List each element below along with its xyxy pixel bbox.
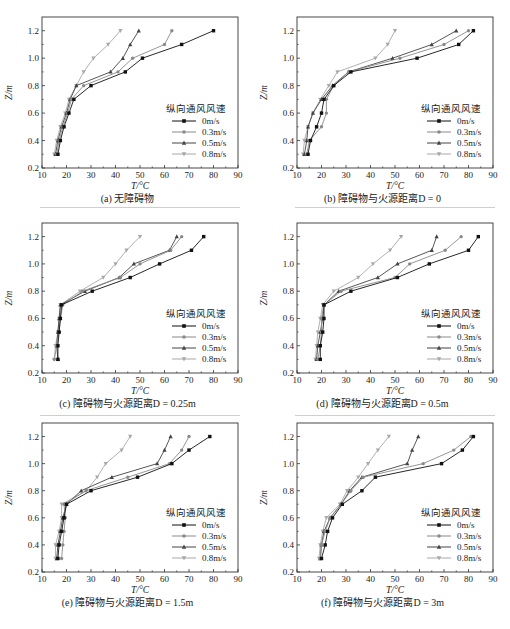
triangle-up-marker-icon: [155, 461, 159, 465]
legend-label: 0.3m/s: [202, 127, 227, 137]
legend-label: 0.5m/s: [457, 138, 482, 148]
square-marker-icon: [319, 344, 322, 347]
divider-1: [40, 207, 240, 208]
chart-f: 1020304050607080900.20.40.60.81.01.2T/°C…: [255, 420, 510, 595]
triangle-down-marker-icon: [324, 516, 328, 520]
chart-b: 1020304050607080900.20.40.60.81.01.2T/°C…: [255, 0, 510, 190]
square-marker-icon: [322, 98, 325, 101]
square-marker-icon: [60, 530, 63, 533]
chart-d: 1020304050607080900.20.40.60.81.01.2T/°C…: [255, 210, 510, 395]
square-marker-icon: [182, 523, 186, 527]
x-tick-label: 40: [111, 574, 121, 584]
square-marker-icon: [190, 249, 193, 252]
legend-label: 0m/s: [202, 321, 220, 331]
y-tick-label: 0.4: [28, 341, 40, 351]
y-tick-label: 1.0: [283, 459, 295, 469]
x-tick-label: 90: [234, 574, 244, 584]
circle-marker-icon: [452, 448, 455, 451]
y-tick-label: 0.6: [283, 108, 295, 118]
x-tick-label: 80: [209, 574, 219, 584]
legend: 纵向通风风速0m/s0.3m/s0.5m/s0.8m/s: [166, 507, 227, 563]
x-axis-label: T/°C: [386, 181, 405, 190]
square-marker-icon: [56, 153, 59, 156]
legend-label: 0.5m/s: [202, 138, 227, 148]
y-tick-label: 1.0: [28, 259, 40, 269]
y-tick-label: 1.2: [28, 432, 39, 442]
square-marker-icon: [415, 56, 418, 59]
circle-marker-icon: [53, 358, 56, 361]
square-marker-icon: [141, 56, 144, 59]
divider-3: [40, 415, 240, 416]
x-tick-label: 60: [415, 170, 425, 180]
series-0.3m/s: [53, 235, 184, 361]
square-marker-icon: [309, 139, 312, 142]
triangle-up-marker-icon: [175, 234, 179, 238]
x-tick-label: 20: [62, 375, 72, 385]
legend-title: 纵向通风风速: [166, 308, 226, 319]
x-tick-label: 50: [136, 574, 146, 584]
square-marker-icon: [89, 489, 92, 492]
square-marker-icon: [136, 475, 139, 478]
circle-marker-icon: [459, 235, 462, 238]
legend-label: 0.3m/s: [457, 531, 482, 541]
x-tick-label: 50: [136, 170, 146, 180]
y-tick-label: 0.2: [283, 368, 294, 378]
square-marker-icon: [129, 276, 132, 279]
series-0.3m/s: [305, 29, 470, 156]
x-tick-label: 20: [317, 170, 327, 180]
circle-marker-icon: [444, 249, 447, 252]
square-marker-icon: [124, 70, 127, 73]
x-tick-label: 40: [111, 170, 121, 180]
x-tick-label: 50: [391, 375, 401, 385]
y-axis-label: Z/m: [4, 290, 14, 305]
circle-marker-icon: [180, 448, 183, 451]
x-tick-label: 50: [391, 574, 401, 584]
x-tick-label: 90: [489, 574, 499, 584]
y-tick-label: 0.8: [28, 286, 40, 296]
circle-marker-icon: [182, 335, 186, 339]
legend: 纵向通风风速0m/s0.3m/s0.5m/s0.8m/s: [421, 507, 482, 563]
triangle-down-marker-icon: [82, 70, 86, 74]
series-0.8m/s: [313, 235, 403, 362]
square-marker-icon: [374, 475, 377, 478]
x-tick-label: 90: [234, 375, 244, 385]
x-tick-label: 70: [440, 574, 450, 584]
series-0m/s: [56, 29, 215, 156]
y-axis-label: Z/m: [4, 490, 14, 505]
circle-marker-icon: [182, 534, 186, 538]
y-tick-label: 1.0: [28, 53, 40, 63]
x-tick-label: 70: [185, 170, 195, 180]
y-tick-label: 0.2: [28, 368, 39, 378]
x-tick-label: 80: [464, 375, 474, 385]
x-tick-label: 40: [366, 375, 376, 385]
square-marker-icon: [472, 29, 475, 32]
circle-marker-icon: [170, 29, 173, 32]
circle-marker-icon: [437, 534, 441, 538]
legend-label: 0.5m/s: [202, 542, 227, 552]
triangle-down-marker-icon: [101, 276, 105, 280]
x-tick-label: 60: [415, 375, 425, 385]
series-0m/s: [56, 235, 205, 361]
circle-marker-icon: [320, 125, 323, 128]
x-tick-label: 20: [62, 574, 72, 584]
square-marker-icon: [341, 503, 344, 506]
y-tick-label: 0.8: [28, 486, 40, 496]
circle-marker-icon: [163, 43, 166, 46]
caption-c: (c) 障碍物与火源距离D = 0.25m: [0, 395, 255, 410]
square-marker-icon: [467, 249, 470, 252]
square-marker-icon: [212, 29, 215, 32]
legend-title: 纵向通风风速: [421, 507, 481, 518]
triangle-up-marker-icon: [435, 234, 439, 238]
y-tick-label: 0.8: [283, 286, 295, 296]
x-tick-label: 70: [185, 574, 195, 584]
square-marker-icon: [57, 330, 60, 333]
square-marker-icon: [349, 289, 352, 292]
circle-marker-icon: [61, 543, 64, 546]
square-marker-icon: [67, 111, 70, 114]
y-tick-label: 0.6: [283, 313, 295, 323]
chart-a: 1020304050607080900.20.40.60.81.01.2T/°C…: [0, 0, 255, 190]
square-marker-icon: [62, 125, 65, 128]
legend-label: 0.3m/s: [202, 531, 227, 541]
square-marker-icon: [56, 344, 59, 347]
series-0m/s: [319, 235, 480, 361]
